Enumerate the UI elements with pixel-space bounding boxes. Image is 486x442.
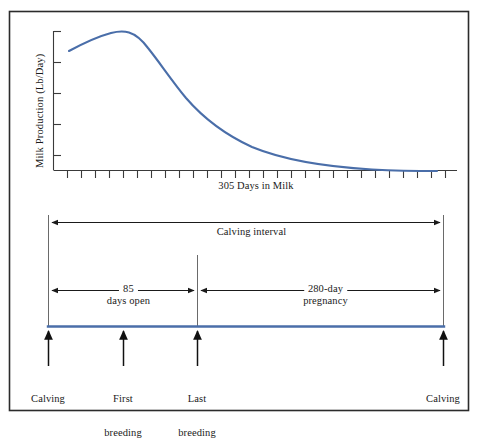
event-label-first-breeding: First breeding <box>104 370 142 442</box>
figure-border <box>10 12 469 411</box>
event-label-last-breeding-line1: Last <box>178 393 216 404</box>
calving-interval-text: Calving interval <box>214 226 290 237</box>
event-label-last-breeding: Last breeding <box>178 370 216 442</box>
lactation-chart <box>54 31 458 178</box>
event-label-first-breeding-line2: breeding <box>104 427 142 438</box>
event-label-calving-end-line1: Calving <box>426 393 460 404</box>
days-open-line2: days open <box>103 295 154 306</box>
x-axis-label: 305 Days in Milk <box>218 180 293 191</box>
lactation-curve <box>69 31 437 171</box>
event-label-last-breeding-line2: breeding <box>178 427 216 438</box>
pregnancy-label: 280-day pregnancy <box>288 272 352 317</box>
calving-interval-label: Calving interval <box>203 215 289 249</box>
pregnancy-line1: 280-day <box>304 283 347 294</box>
event-arrows <box>49 331 444 366</box>
pregnancy-line2: pregnancy <box>299 295 352 306</box>
days-open-label: 85 days open <box>92 272 154 317</box>
x-axis-ticks <box>68 171 446 179</box>
event-label-calving-start-line1: Calving <box>31 393 65 404</box>
y-axis-ticks <box>54 32 62 156</box>
y-axis-label: Milk Production (Lb/Day) <box>34 54 45 168</box>
event-label-calving-start: Calving <box>31 370 65 427</box>
event-label-first-breeding-line1: First <box>104 393 142 404</box>
days-open-line1: 85 <box>119 283 138 294</box>
event-label-calving-end: Calving <box>426 370 460 427</box>
